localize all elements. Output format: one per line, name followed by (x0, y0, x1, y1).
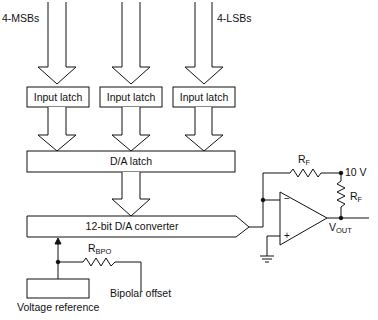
da-latch-label: D/A latch (27, 151, 235, 172)
rf-side-sub: F (358, 195, 363, 204)
rf-top-main: R (298, 153, 306, 165)
latch-arrow-1 (38, 107, 76, 151)
rf-top-label: RF (298, 154, 310, 167)
rbpo-label: RBPO (88, 243, 111, 256)
vout-main: V (329, 221, 336, 233)
rf-top-resistor (290, 169, 341, 177)
latch-arrow-3 (185, 107, 223, 151)
opamp-minus-sign: − (284, 194, 290, 204)
rf-top-sub: F (306, 158, 311, 167)
input-arrow-mid (112, 2, 150, 84)
opamp-plus-sign: + (284, 231, 290, 241)
junction-node (261, 198, 265, 202)
da-arrow (112, 172, 150, 216)
ground-icon (260, 256, 274, 262)
rf-side-main: R (350, 190, 358, 202)
latch-arrow-2 (112, 107, 150, 151)
rf-side-label: RF (350, 191, 362, 204)
rbpo-sub: BPO (96, 247, 112, 256)
msb-label: 4-MSBs (2, 13, 39, 24)
bipolar-offset-label: Bipolar offset (110, 288, 171, 299)
rf-side-resistor (337, 173, 345, 218)
voltage-reference-label: Voltage reference (17, 302, 99, 313)
rbpo-main: R (88, 242, 96, 254)
input-latch-2-label: Input latch (100, 87, 162, 107)
voltage-reference-box (27, 279, 89, 298)
supply-label: 10 V (345, 167, 367, 178)
input-latch-3-label: Input latch (173, 87, 235, 107)
noninverting-wire (267, 236, 280, 256)
converter-label: 12-bit D/A converter (27, 216, 237, 237)
lsb-label: 4-LSBs (217, 13, 251, 24)
vout-label: VOUT (329, 222, 352, 235)
vout-sub: OUT (336, 226, 352, 235)
input-latch-1-label: Input latch (27, 87, 89, 107)
vref-arrow-icon (55, 238, 61, 244)
input-arrow-msb (38, 2, 76, 84)
